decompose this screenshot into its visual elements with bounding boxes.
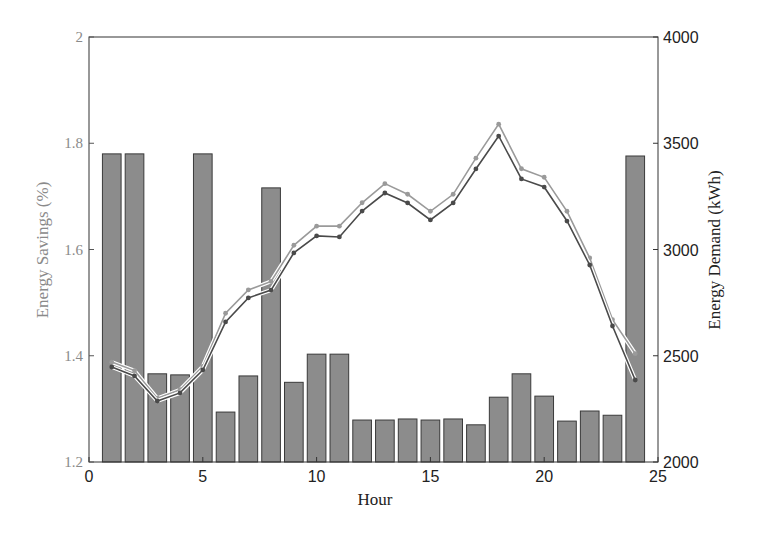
line-marker xyxy=(542,175,547,180)
line-marker xyxy=(269,279,274,284)
line-marker xyxy=(382,181,387,186)
y-axis-right-label: Energy Demand (kWh) xyxy=(705,170,724,329)
line-marker xyxy=(132,368,137,373)
line-series-energy-demand xyxy=(109,122,637,404)
y-left-tick-label: 2 xyxy=(76,29,84,45)
line-marker xyxy=(314,234,319,239)
bar xyxy=(467,425,486,462)
x-tick-label: 5 xyxy=(198,468,207,485)
line-marker xyxy=(405,192,410,197)
bar xyxy=(353,420,372,462)
line-marker xyxy=(451,192,456,197)
bar xyxy=(239,376,258,462)
line-marker xyxy=(474,156,479,161)
y-right-tick-label: 2500 xyxy=(663,348,699,365)
line-marker xyxy=(109,360,114,365)
bar xyxy=(535,396,554,462)
line-halo xyxy=(112,124,635,398)
bar xyxy=(444,419,463,462)
line-marker xyxy=(428,209,433,214)
bar xyxy=(125,154,144,462)
bar xyxy=(330,354,349,462)
x-axis-label: Hour xyxy=(358,490,393,509)
line-marker xyxy=(200,368,205,373)
line-marker xyxy=(610,324,615,329)
line-marker xyxy=(337,224,342,229)
x-tick-label: 10 xyxy=(308,468,326,485)
x-tick-label: 20 xyxy=(535,468,553,485)
line-marker xyxy=(405,201,410,206)
line-marker xyxy=(155,399,160,404)
line-marker xyxy=(565,209,570,214)
line-marker xyxy=(360,209,365,214)
bar xyxy=(102,154,121,462)
y-right-tick-label: 3000 xyxy=(663,242,699,259)
line-marker xyxy=(428,218,433,223)
line-marker xyxy=(246,287,251,292)
line-marker xyxy=(565,219,570,224)
line-marker xyxy=(496,122,501,127)
bar xyxy=(398,419,417,462)
bar xyxy=(603,415,622,462)
line-marker xyxy=(633,378,638,383)
line-marker xyxy=(587,263,592,268)
x-tick-label: 0 xyxy=(85,468,94,485)
bar xyxy=(489,397,508,462)
y-left-tick-label: 1.8 xyxy=(64,135,83,151)
line-marker xyxy=(109,365,114,370)
y-right-tick-label: 3500 xyxy=(663,135,699,152)
line xyxy=(112,136,635,401)
line-marker xyxy=(519,166,524,171)
line-marker xyxy=(633,351,638,356)
bar xyxy=(193,154,212,462)
bar xyxy=(148,374,167,462)
y-right-tick-label: 2000 xyxy=(663,454,699,471)
y-right-tick-label: 4000 xyxy=(663,29,699,46)
line-marker xyxy=(291,243,296,248)
bar xyxy=(421,420,440,462)
line-marker xyxy=(269,288,274,293)
bar xyxy=(216,412,235,462)
line-marker xyxy=(223,311,228,316)
y-left-tick-label: 1.4 xyxy=(64,348,83,364)
line-marker xyxy=(519,177,524,182)
line xyxy=(112,124,635,398)
line-marker xyxy=(246,296,251,301)
y-axis-left-label: Energy Savings (%) xyxy=(33,182,52,319)
line-marker xyxy=(223,320,228,325)
bar xyxy=(626,156,645,462)
bar xyxy=(285,382,304,462)
line-marker xyxy=(496,134,501,139)
bar xyxy=(512,374,531,462)
bar xyxy=(262,188,281,462)
line-marker xyxy=(360,200,365,205)
line-marker xyxy=(291,251,296,256)
line-marker xyxy=(382,191,387,196)
line-marker xyxy=(337,235,342,240)
line-marker xyxy=(132,374,137,379)
bar xyxy=(307,354,326,462)
line-marker xyxy=(314,224,319,229)
bar xyxy=(580,411,599,462)
line-marker xyxy=(542,185,547,190)
line-halo xyxy=(112,136,635,401)
y-left-tick-label: 1.6 xyxy=(64,242,83,258)
x-tick-label: 15 xyxy=(422,468,440,485)
line-marker xyxy=(474,167,479,172)
bar xyxy=(558,421,577,462)
chart: 05101520251.21.41.61.8220002500300035004… xyxy=(0,0,761,538)
bar xyxy=(376,420,395,462)
line-marker xyxy=(178,391,183,396)
line-marker xyxy=(451,201,456,206)
y-left-tick-label: 1.2 xyxy=(64,454,83,470)
